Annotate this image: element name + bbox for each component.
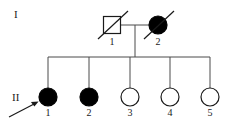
id-label-ii-4: 4 — [168, 107, 173, 118]
id-label-ii-2: 2 — [87, 107, 92, 118]
symbol-ii-2-female-circle-affected[interactable] — [80, 88, 98, 106]
pedigree-canvas: I II 1 2 1 2 3 4 5 — [0, 0, 235, 119]
symbol-ii-4-female-circle-unaffected[interactable] — [161, 88, 179, 106]
id-label-i-1: 1 — [110, 36, 115, 47]
proband-arrow-head-icon — [31, 102, 39, 107]
proband-arrow-shaft — [9, 103, 36, 117]
id-label-ii-3: 3 — [128, 107, 133, 118]
symbol-ii-3-female-circle-unaffected[interactable] — [121, 88, 139, 106]
generation-label-I: I — [14, 8, 18, 20]
generation-label-II: II — [12, 91, 20, 103]
id-label-ii-1: 1 — [46, 107, 51, 118]
id-label-ii-5: 5 — [208, 107, 213, 118]
id-label-i-2: 2 — [156, 36, 161, 47]
pedigree-chart: I II 1 2 1 2 3 4 5 — [0, 0, 235, 119]
symbol-ii-5-female-circle-unaffected[interactable] — [201, 88, 219, 106]
symbol-ii-1-female-circle-affected[interactable] — [39, 88, 57, 106]
